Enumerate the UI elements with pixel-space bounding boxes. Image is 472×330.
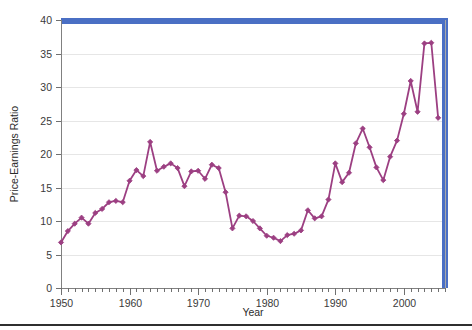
bottom-divider-rule — [0, 324, 472, 326]
x-axis-title: Year — [242, 306, 264, 318]
x-tick-label: 1970 — [187, 297, 211, 309]
y-tick-label: 30 — [40, 81, 52, 93]
y-tick-label: 35 — [40, 48, 52, 60]
x-tick-label: 1950 — [50, 297, 74, 309]
y-axis-ticks — [56, 21, 61, 289]
y-axis-tick-labels: 0510152025303540 — [40, 14, 52, 294]
y-tick-label: 20 — [40, 148, 52, 160]
y-tick-label: 15 — [40, 182, 52, 194]
x-tick-label: 1960 — [119, 297, 143, 309]
y-tick-label: 5 — [46, 249, 52, 261]
x-axis-tick-labels: 195019601970198019902000 — [50, 297, 417, 309]
y-tick-label: 0 — [46, 282, 52, 294]
price-earnings-ratio-plot: 0510152025303540 19501960197019801990200… — [0, 0, 472, 330]
y-tick-label: 25 — [40, 115, 52, 127]
x-axis-minor-ticks — [62, 288, 446, 292]
y-axis-title: Price-Earnings Ratio — [8, 106, 20, 202]
y-tick-label: 10 — [40, 215, 52, 227]
x-tick-label: 1990 — [324, 297, 348, 309]
chart-figure: 0510152025303540 19501960197019801990200… — [0, 0, 472, 330]
y-tick-label: 40 — [40, 14, 52, 26]
x-tick-label: 2000 — [393, 297, 417, 309]
